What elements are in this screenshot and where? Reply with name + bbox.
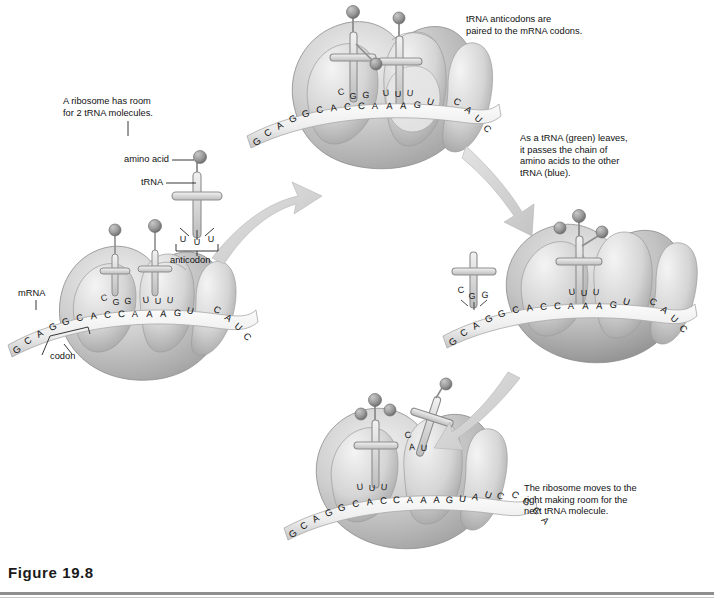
anticodon-base: G	[122, 295, 133, 306]
anticodon-base: C	[98, 292, 110, 304]
label-codon: codon	[50, 351, 75, 362]
mrna-base: C	[390, 494, 402, 506]
mrna-base: A	[87, 309, 100, 322]
anticodon-base: A	[407, 442, 418, 453]
anticodon-base: U	[381, 88, 392, 99]
label-trna: tRNA	[141, 177, 163, 188]
mrna-base: A	[370, 100, 381, 111]
mrna-base: C	[355, 100, 367, 112]
mrna-base: A	[566, 300, 577, 311]
mrna-base: A	[363, 495, 376, 508]
mrna-base: A	[130, 308, 141, 319]
figure-number: Figure 19.8	[8, 564, 94, 581]
ribosome-stage-3	[506, 210, 697, 363]
mrna-base: C	[341, 100, 353, 112]
anticodon-base: U	[405, 88, 416, 99]
mrna-base: A	[327, 101, 340, 114]
anticodon-base: U	[567, 287, 578, 298]
anticodon-base: G	[111, 297, 121, 307]
caption-rule-bottom	[0, 597, 714, 598]
note-anticodons-paired: tRNA anticodons are paired to the mRNA c…	[466, 14, 582, 37]
mrna-base: A	[430, 494, 442, 506]
mrna-base: G	[171, 306, 183, 318]
mrna-base: A	[405, 494, 416, 505]
label-anticodon: anticodon	[170, 255, 210, 266]
mrna-base: G	[443, 494, 455, 506]
ribosome-stage-2	[292, 6, 492, 169]
free-trna-stage-1	[172, 151, 222, 241]
mrna-base: A	[523, 301, 536, 314]
anticodon-base: U	[192, 237, 202, 247]
mrna-base: A	[417, 494, 428, 505]
mrna-base: A	[383, 100, 394, 111]
anticodon-base: U	[419, 443, 430, 454]
mrna-base: G	[411, 98, 424, 111]
mrna-base: A	[579, 300, 590, 311]
note-ribosome-moves: The ribosome moves to the right making r…	[524, 483, 637, 518]
ribosome-stage-4	[316, 378, 507, 549]
mrna-base: C	[551, 300, 563, 312]
anticodon-base: U	[591, 287, 602, 298]
mrna-base: A	[157, 308, 169, 320]
anticodon-base: U	[379, 482, 390, 493]
anticodon-base: U	[153, 296, 163, 306]
anticodon-base: U	[367, 483, 377, 493]
label-amino-acid: amino acid	[124, 154, 169, 165]
anticodon-base: G	[360, 89, 371, 100]
anticodon-base: G	[467, 291, 477, 301]
mrna-base: C	[115, 308, 127, 320]
caption-rule-top	[0, 592, 714, 595]
anticodon-base: U	[206, 234, 216, 244]
departing-trna	[452, 252, 496, 310]
mrna-base: G	[607, 298, 620, 311]
mrna-base: C	[101, 308, 113, 320]
label-mrna: mRNA	[18, 288, 45, 299]
mrna-base: C	[537, 300, 549, 312]
mrna-base: U	[456, 492, 468, 504]
anticodon-base: C	[455, 284, 467, 296]
anticodon-base: U	[393, 89, 403, 99]
anticodon-base: C	[335, 86, 347, 98]
anticodon-base: U	[355, 482, 366, 493]
mrna-base: C	[377, 494, 389, 506]
note-trna-leaves: As a tRNA (green) leaves, it passes the …	[520, 133, 627, 179]
anticodon-base: U	[165, 295, 176, 306]
anticodon-base: U	[178, 234, 188, 244]
mrna-base: A	[593, 300, 605, 312]
figure-canvas: G C A G G C A C C A A A G U C A U C C G …	[0, 0, 714, 603]
anticodon-base: U	[579, 288, 589, 298]
mrna-base: A	[397, 100, 409, 112]
anticodon-base: G	[348, 91, 358, 101]
arrow-1	[212, 182, 322, 264]
mrna-base: A	[143, 308, 154, 319]
figure-caption: Figure 19.8	[0, 556, 714, 603]
anticodon-base: U	[141, 295, 152, 306]
note-ribosome-room: A ribosome has room for 2 tRNA molecules…	[63, 96, 153, 119]
anticodon-base: G	[480, 290, 491, 301]
